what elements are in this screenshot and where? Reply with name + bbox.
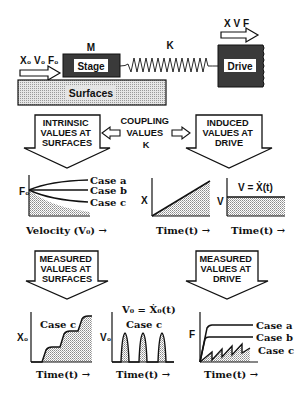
y-axis-label: V bbox=[217, 196, 224, 207]
case-b-label: Case b bbox=[90, 185, 127, 196]
coupling-line-1: COUPLING bbox=[120, 116, 169, 126]
measured-surfaces-arrow: MEASURED VALUES AT SURFACES bbox=[26, 251, 108, 299]
case-b-label: Case b bbox=[256, 332, 293, 343]
chart-drive-position: X Time(t) → bbox=[141, 178, 211, 236]
coupling-line-2: VALUES bbox=[126, 128, 163, 138]
drive-label: Drive bbox=[227, 61, 252, 72]
induced-line-1: INDUCED bbox=[207, 118, 249, 128]
x-axis-label: Velocity (V₀) → bbox=[25, 225, 108, 236]
drive-input-arrow-icon bbox=[221, 28, 258, 42]
chart-friction-velocity: F₀ Case a Case b Case c Velocity (V₀) → bbox=[19, 175, 127, 236]
y-axis-label: F₀ bbox=[19, 186, 30, 197]
y-axis-label: V₀ bbox=[100, 332, 111, 343]
case-a-label: Case a bbox=[256, 320, 293, 331]
case-c-label: Case c bbox=[258, 345, 294, 356]
chart-title: V = Ẋ(t) bbox=[238, 181, 273, 193]
measured-surfaces-line-2: VALUES AT bbox=[41, 264, 92, 274]
mass-label: M bbox=[87, 42, 95, 53]
coupling-line-3: K bbox=[143, 140, 150, 150]
coupling-left-arrow-icon bbox=[102, 127, 120, 139]
coupling-right-arrow-icon bbox=[172, 127, 190, 139]
x-axis-label: Time(t) → bbox=[204, 369, 259, 380]
x-axis-label: Time(t) → bbox=[231, 225, 286, 236]
intrinsic-line-2: VALUES AT bbox=[41, 128, 92, 138]
measured-drive-arrow: MEASURED VALUES AT DRIVE bbox=[186, 251, 268, 299]
surfaces-label: Surfaces bbox=[69, 87, 114, 99]
chart-subtitle: Case c bbox=[126, 319, 162, 330]
x-axis-label: Time(t) → bbox=[116, 369, 171, 380]
case-c-label: Case c bbox=[90, 197, 126, 208]
intrinsic-line-1: INTRINSIC bbox=[43, 118, 89, 128]
svg-text:MEASURED VALUES AT: MEASURED VALUES AT SURFACES bbox=[39, 254, 94, 284]
case-a-line bbox=[29, 180, 88, 190]
measured-drive-line-3: DRIVE bbox=[213, 274, 241, 284]
drive-input-label: X V F bbox=[224, 18, 249, 29]
chart-stage-velocity: V₀ V₀ = Ẋ₀(t) Case c Time(t) → bbox=[100, 303, 176, 380]
chart-drive-force: F Case a Case b Case c Time(t) → bbox=[189, 312, 294, 380]
spring-icon bbox=[120, 58, 218, 72]
stick-slip-diagram: X₀ V₀ F₀ M Stage Surfaces K X V F Drive … bbox=[0, 0, 303, 395]
intrinsic-arrow: INTRINSIC VALUES AT SURFACES bbox=[24, 115, 110, 168]
y-axis-label: F bbox=[189, 329, 195, 340]
chart-stage-position: X₀ Case c Time(t) → bbox=[17, 312, 92, 380]
spring-label: K bbox=[166, 40, 174, 51]
chart-title: Case c bbox=[40, 319, 76, 330]
measured-surfaces-line-1: MEASURED bbox=[39, 254, 92, 264]
induced-line-3: DRIVE bbox=[215, 138, 243, 148]
shaded-area bbox=[227, 197, 285, 216]
y-axis-label: X bbox=[141, 195, 148, 206]
stage-input-label: X₀ V₀ F₀ bbox=[20, 55, 59, 66]
measured-drive-line-1: MEASURED bbox=[199, 254, 252, 264]
x-axis-label: Time(t) → bbox=[156, 225, 211, 236]
y-axis-label: X₀ bbox=[17, 332, 28, 343]
measured-drive-line-2: VALUES AT bbox=[201, 264, 252, 274]
x-axis-label: Time(t) → bbox=[36, 369, 91, 380]
chart-drive-velocity: V V = Ẋ(t) Time(t) → bbox=[217, 178, 286, 236]
stage-label: Stage bbox=[77, 61, 105, 72]
induced-arrow: INDUCED VALUES AT DRIVE bbox=[186, 115, 272, 168]
svg-text:INTRINSIC VALUES AT: INTRINSIC VALUES AT SURFACES bbox=[41, 118, 94, 148]
mechanism: X₀ V₀ F₀ M Stage Surfaces K X V F Drive bbox=[18, 18, 264, 105]
induced-line-2: VALUES AT bbox=[203, 128, 254, 138]
chart-title: V₀ = Ẋ₀(t) bbox=[121, 303, 176, 315]
svg-text:COUPLING VALUES K: COUPLING VALUES K bbox=[120, 116, 171, 150]
intrinsic-line-3: SURFACES bbox=[42, 138, 92, 148]
stage-input-arrow-icon bbox=[20, 66, 60, 80]
coupling: COUPLING VALUES K bbox=[102, 116, 190, 150]
measured-surfaces-line-3: SURFACES bbox=[42, 274, 92, 284]
